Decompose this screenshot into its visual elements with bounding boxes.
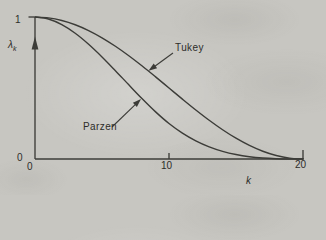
tukey-arrowhead-icon: [149, 64, 158, 71]
x-tick-label-20: 20: [295, 159, 306, 170]
tukey-leader-line: [155, 53, 174, 67]
y-axis-up-arrowhead-icon: [32, 37, 39, 50]
tukey-curve: [35, 17, 303, 159]
y-max-tick-label: 1: [15, 14, 21, 25]
tukey-label: Tukey: [175, 42, 204, 53]
y-axis-label-sub: k: [13, 45, 17, 52]
x-tick-label-10: 10: [161, 160, 172, 171]
y-axis-label: λk: [8, 39, 16, 54]
y-zero-tick-label: 0: [17, 152, 23, 163]
x-axis-label: k: [246, 175, 251, 186]
lag-window-chart: 1 λk 0 0 10 20 k Tukey Parzen: [0, 0, 326, 195]
x-zero-tick-label: 0: [27, 161, 33, 172]
parzen-label: Parzen: [83, 121, 117, 132]
